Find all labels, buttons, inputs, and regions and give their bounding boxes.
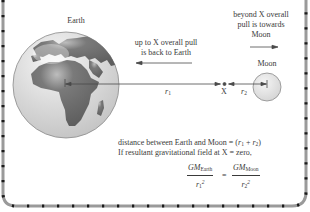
moon-denominator: r22	[241, 176, 250, 191]
earth-field-fraction: GMEarth r12	[187, 163, 213, 191]
pull-towards-moon-line1: beyond X overall	[224, 10, 298, 20]
distance-text: distance between Earth and Moon = (	[118, 138, 238, 147]
neutral-point-x-label: X	[221, 87, 227, 97]
r2-label: r2	[241, 87, 247, 98]
earth-numerator: GMEarth	[187, 163, 213, 176]
r2-den-sup: 2	[247, 179, 250, 185]
moon-label: Moon	[250, 59, 284, 69]
pull-towards-moon-line2: pull is towards	[224, 20, 298, 30]
pull-back-note-line1: up to X overall pull	[118, 38, 214, 48]
moon-subscript: Moon	[245, 166, 258, 172]
r1-den-sup: 2	[202, 179, 205, 185]
pull-back-note-line2: is back to Earth	[118, 48, 214, 58]
close-paren: )	[258, 138, 261, 147]
pull-back-note: up to X overall pull is back to Earth	[118, 38, 214, 58]
r2-subscript: 2	[244, 90, 247, 96]
gm-earth: GM	[188, 163, 200, 172]
gm-moon: GM	[233, 163, 245, 172]
earth-denominator: r12	[196, 176, 205, 191]
r1-label: r1	[165, 87, 171, 98]
earth-label: Earth	[56, 16, 96, 26]
moon-numerator: GMMoon	[232, 163, 260, 176]
moon-field-fraction: GMMoon r22	[232, 163, 260, 191]
pull-towards-moon-note: beyond X overall pull is towards Moon	[224, 10, 298, 40]
equals-sign: =	[222, 171, 227, 181]
r1-subscript: 1	[168, 90, 171, 96]
earth-subscript: Earth	[200, 166, 212, 172]
zero-field-condition: If resultant gravitational field at X = …	[118, 148, 252, 158]
pull-towards-moon-line3: Moon	[224, 30, 298, 40]
